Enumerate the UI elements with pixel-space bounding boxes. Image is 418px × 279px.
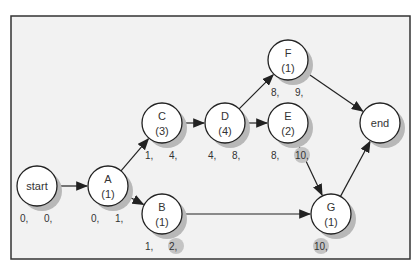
svg-text:(4): (4): [218, 125, 231, 137]
svg-text:(1): (1): [155, 216, 168, 228]
svg-text:(1): (1): [281, 62, 294, 74]
svg-text:D: D: [221, 110, 229, 122]
time-label: 0,: [44, 213, 52, 224]
svg-text:F: F: [285, 47, 292, 59]
svg-text:start: start: [26, 180, 47, 192]
time-label: 10,: [314, 241, 328, 252]
time-label: 4,: [169, 150, 177, 161]
time-label: 8,: [271, 150, 279, 161]
svg-text:C: C: [158, 110, 166, 122]
time-label: 0,: [91, 213, 99, 224]
time-label: 2,: [169, 241, 177, 252]
time-label: 8,: [232, 150, 240, 161]
svg-text:(3): (3): [155, 125, 168, 137]
svg-text:G: G: [327, 201, 336, 213]
svg-text:(2): (2): [281, 125, 294, 137]
time-label: 1,: [145, 150, 153, 161]
network-diagram: start0,0,A(1)0,1,C(3)1,4,D(4)4,8,F(1)8,9…: [0, 0, 418, 279]
time-label: 8,: [271, 87, 279, 98]
svg-text:(1): (1): [324, 216, 337, 228]
time-label: 4,: [208, 150, 216, 161]
svg-text:E: E: [284, 110, 291, 122]
svg-text:end: end: [371, 117, 389, 129]
time-label: 1,: [145, 241, 153, 252]
time-label: 10,: [295, 150, 309, 161]
svg-text:(1): (1): [101, 188, 114, 200]
time-label: 1,: [115, 213, 123, 224]
time-label: 9,: [295, 87, 303, 98]
svg-text:A: A: [104, 173, 112, 185]
time-label: 0,: [20, 213, 28, 224]
svg-text:B: B: [158, 201, 165, 213]
